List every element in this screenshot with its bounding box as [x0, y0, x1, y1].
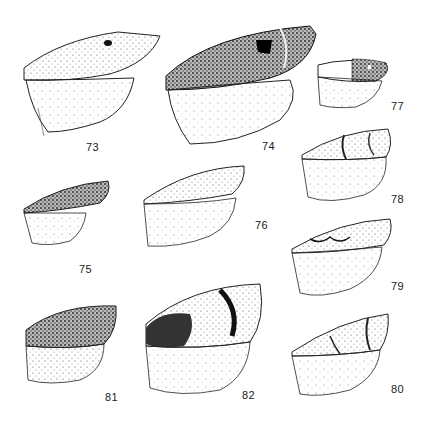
- wing-drawing-82: [140, 280, 270, 400]
- wing-drawing-78: [300, 125, 396, 210]
- wing-drawing-74: [160, 20, 320, 150]
- figure-74-wings: [160, 20, 320, 150]
- figure-label: 78: [391, 193, 404, 205]
- figure-label: 75: [79, 263, 92, 275]
- illustration-plate: 73 74 77 78 75: [0, 0, 421, 426]
- figure-73-wings: [0, 0, 170, 140]
- figure-78-wings: [300, 125, 396, 210]
- figure-label: 77: [391, 100, 404, 112]
- wing-drawing-80: [290, 310, 395, 405]
- figure-75-wings: [20, 175, 120, 255]
- wing-drawing-73: [0, 0, 170, 140]
- wing-drawing-79: [290, 215, 395, 305]
- figure-label: 80: [391, 383, 404, 395]
- figure-label: 81: [105, 391, 118, 403]
- figure-79-wings: [290, 215, 395, 305]
- wing-drawing-75: [20, 175, 120, 255]
- figure-80-wings: [290, 310, 395, 405]
- wing-drawing-76: [140, 160, 250, 255]
- wing-drawing-77: [316, 55, 396, 115]
- figure-82-wings: [140, 280, 270, 400]
- figure-77-wings: [316, 55, 396, 115]
- wing-drawing-81: [20, 300, 120, 390]
- figure-label: 73: [86, 141, 99, 153]
- figure-label: 79: [391, 280, 404, 292]
- figure-76-wings: [140, 160, 250, 255]
- figure-label: 76: [255, 219, 268, 231]
- figure-81-wings: [20, 300, 120, 390]
- figure-label: 74: [262, 140, 275, 152]
- figure-label: 82: [242, 389, 255, 401]
